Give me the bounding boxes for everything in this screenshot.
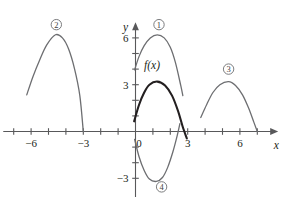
x-axis-label: x <box>273 139 280 151</box>
x-axis-arrowhead <box>270 128 278 135</box>
y-tick-label: 6 <box>123 32 129 44</box>
y-axis-arrowhead <box>132 22 139 30</box>
plot-canvas: −6−33636−30xyf(x) 1234 <box>0 0 304 204</box>
labels-layer: −6−33636−30xyf(x) <box>25 21 279 184</box>
x-tick-label: 3 <box>185 137 191 149</box>
curve-3 <box>201 82 258 132</box>
curves-layer <box>27 34 258 181</box>
curve-2 <box>27 34 84 131</box>
x-tick-label: 6 <box>237 137 243 149</box>
origin-label: 0 <box>136 137 142 149</box>
y-axis-label: y <box>122 21 129 34</box>
marker-1: 1 <box>154 19 164 29</box>
marker-4-text: 4 <box>159 182 164 192</box>
math-figure: −6−33636−30xyf(x) 1234 <box>0 0 304 204</box>
y-tick-label: −3 <box>117 172 129 184</box>
x-tick-label: −3 <box>77 137 89 149</box>
function-label: f(x) <box>144 59 160 72</box>
marker-1-text: 1 <box>157 20 161 30</box>
marker-2-text: 2 <box>54 20 58 30</box>
marker-2: 2 <box>51 19 61 29</box>
x-tick-label: −6 <box>25 137 37 149</box>
marker-3: 3 <box>223 64 233 74</box>
y-tick-label: 3 <box>123 79 129 91</box>
curve-4 <box>135 124 180 182</box>
marker-4: 4 <box>156 182 166 192</box>
marker-3-text: 3 <box>226 64 230 74</box>
